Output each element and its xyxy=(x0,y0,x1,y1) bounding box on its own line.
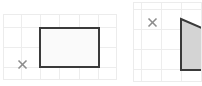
left-grid-panel xyxy=(3,14,117,80)
rectangle-shape xyxy=(40,28,99,67)
left-shape-svg xyxy=(3,14,117,80)
x-mark-icon xyxy=(147,17,158,28)
shaded-quadrilateral-shape xyxy=(181,19,202,70)
x-mark-right xyxy=(147,17,158,28)
x-mark-icon xyxy=(17,59,28,70)
x-mark-left xyxy=(17,59,28,70)
right-grid-panel xyxy=(133,2,202,82)
figure-canvas xyxy=(0,0,202,86)
right-shape-svg xyxy=(133,2,202,82)
